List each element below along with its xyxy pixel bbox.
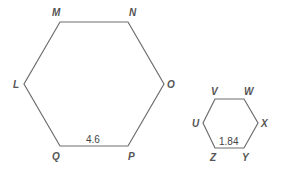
vertex-o: O xyxy=(167,79,175,90)
vertex-v: V xyxy=(211,86,219,97)
large-hexagon xyxy=(24,22,164,146)
side-length-zy: 1.84 xyxy=(219,136,239,147)
vertex-q: Q xyxy=(52,151,60,162)
vertex-l: L xyxy=(13,79,19,90)
vertex-m: M xyxy=(52,7,61,18)
vertex-x: X xyxy=(260,118,269,129)
vertex-y: Y xyxy=(242,152,250,163)
vertex-u: U xyxy=(192,118,200,129)
vertex-z: Z xyxy=(209,152,217,163)
side-length-qp: 4.6 xyxy=(86,134,100,145)
vertex-n: N xyxy=(129,7,137,18)
vertex-w: W xyxy=(244,86,255,97)
vertex-p: P xyxy=(128,151,135,162)
similar-hexagons-diagram: M N O P Q L 4.6 V W X Y Z U 1.84 xyxy=(0,0,283,171)
